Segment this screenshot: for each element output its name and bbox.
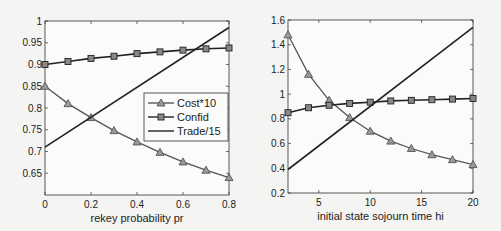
square-marker (326, 102, 332, 108)
legend-label: Cost*10 (177, 97, 216, 109)
x-tick-label: 0.6 (176, 199, 190, 210)
square-marker (408, 97, 414, 103)
y-tick-label: 1 (279, 89, 285, 100)
square-marker (449, 96, 455, 102)
y-tick-label: 0.6 (271, 138, 285, 149)
square-marker (111, 53, 117, 59)
y-tick-label: 0.85 (23, 81, 43, 92)
x-axis-label: initial state sojourn time hi (317, 210, 444, 222)
y-tick-label: 1.2 (271, 64, 285, 75)
square-marker (429, 97, 435, 103)
legend-label: Confid (177, 111, 209, 123)
square-marker (226, 45, 232, 51)
x-axis-label: rekey probability pr (91, 212, 184, 224)
x-tick-label: 10 (365, 197, 377, 208)
square-marker (180, 47, 186, 53)
square-marker (134, 51, 140, 57)
x-tick-label: 0.2 (84, 199, 98, 210)
square-marker (42, 62, 48, 68)
y-tick-label: 0.4 (271, 163, 285, 174)
left-plot: 00.20.40.60.80.650.70.750.80.850.90.951r… (23, 16, 237, 225)
y-tick-label: 0.65 (23, 168, 43, 179)
x-tick-label: 0.8 (222, 199, 236, 210)
y-tick-label: 0.8 (271, 113, 285, 124)
square-marker (306, 105, 312, 111)
square-marker (65, 58, 71, 64)
square-marker (285, 110, 291, 116)
x-tick-label: 0 (42, 199, 48, 210)
x-tick-label: 15 (416, 197, 428, 208)
y-tick-label: 0.8 (28, 103, 42, 114)
square-marker (157, 49, 163, 55)
y-tick-label: 0.9 (28, 59, 42, 70)
y-tick-label: 0.95 (23, 37, 43, 48)
x-tick-label: 5 (316, 197, 322, 208)
square-marker (203, 46, 209, 52)
figure: 00.20.40.60.80.650.70.750.80.850.90.951r… (0, 0, 501, 231)
square-icon (158, 114, 164, 120)
legend-label: Trade/15 (177, 125, 221, 137)
y-tick-label: 0.7 (28, 146, 42, 157)
y-tick-label: 1.4 (271, 39, 285, 50)
square-marker (347, 100, 353, 106)
square-marker (88, 55, 94, 61)
square-marker (470, 95, 476, 101)
y-tick-label: 0.2 (271, 188, 285, 199)
x-tick-label: 0.4 (130, 199, 144, 210)
legend: Cost*10ConfidTrade/15 (144, 93, 228, 141)
square-marker (388, 98, 394, 104)
x-tick-label: 20 (467, 197, 479, 208)
y-tick-label: 0.75 (23, 124, 43, 135)
right-plot: 51015200.20.40.60.811.21.41.6initial sta… (271, 15, 479, 223)
y-tick-label: 1.6 (271, 15, 285, 26)
y-tick-label: 1 (36, 16, 42, 27)
